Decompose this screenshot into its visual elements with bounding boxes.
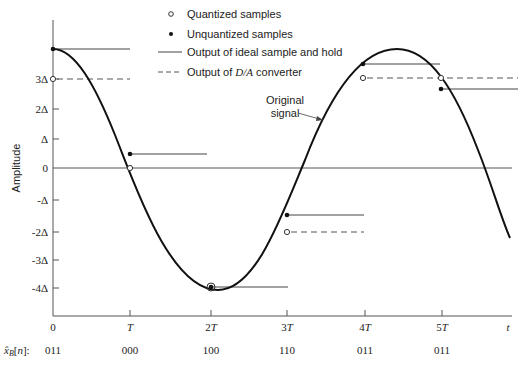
- legend: Quantized samples Unquantized samples Ou…: [158, 8, 342, 78]
- code-4: 011: [357, 344, 373, 356]
- xtick-T: T: [127, 321, 134, 333]
- axes: [53, 20, 512, 316]
- legend-unquantized: Unquantized samples: [187, 28, 293, 40]
- ytick-neg1d: -Δ: [37, 194, 48, 206]
- annotation-line1: Original: [266, 94, 304, 106]
- code-1: 000: [122, 344, 139, 356]
- ytick-0: 0: [43, 162, 49, 174]
- code-0: 011: [45, 344, 61, 356]
- quantized-samples: [50, 75, 443, 291]
- y-axis-label: Amplitude: [10, 144, 22, 193]
- x-tick-labels: 0 T 2T 3T 4T 5T t: [50, 321, 510, 333]
- xtick-5T: 5T: [436, 321, 449, 333]
- original-signal-curve: [53, 49, 510, 290]
- legend-quantized: Quantized samples: [187, 8, 282, 20]
- ytick-neg4d: -4Δ: [32, 282, 48, 294]
- xtick-4T: 4T: [359, 321, 372, 333]
- code-5: 011: [434, 344, 450, 356]
- ytick-neg3d: -3Δ: [32, 254, 48, 266]
- xtick-2T: 2T: [205, 321, 218, 333]
- ytick-2d: 2Δ: [35, 103, 48, 115]
- original-signal-annotation: Original signal: [266, 94, 323, 121]
- y-tick-labels: 3Δ 2Δ Δ 0 -Δ -2Δ -3Δ -4Δ: [32, 73, 49, 294]
- ytick-1d: Δ: [41, 133, 48, 145]
- annotation-line2: signal: [271, 107, 300, 119]
- codes-label: x̂B[n]:: [3, 344, 30, 358]
- ytick-3d: 3Δ: [35, 73, 48, 85]
- ytick-neg2d: -2Δ: [32, 226, 48, 238]
- legend-filled-dot-icon: [169, 32, 173, 36]
- legend-open-circle-icon: [169, 12, 174, 17]
- code-3: 110: [279, 344, 296, 356]
- codes-row: x̂B[n]: 011 000 100 110 011 011: [3, 344, 450, 358]
- xtick-3T: 3T: [281, 321, 294, 333]
- sampling-quantization-diagram: 3Δ 2Δ Δ 0 -Δ -2Δ -3Δ -4Δ Amplitude 0 T 2…: [0, 0, 528, 365]
- legend-da-output: Output of D/A converter: [187, 66, 302, 78]
- code-2: 100: [203, 344, 220, 356]
- xtick-0: 0: [50, 321, 56, 333]
- x-axis-end-label: t: [506, 321, 510, 333]
- legend-sample-hold: Output of ideal sample and hold: [187, 46, 342, 58]
